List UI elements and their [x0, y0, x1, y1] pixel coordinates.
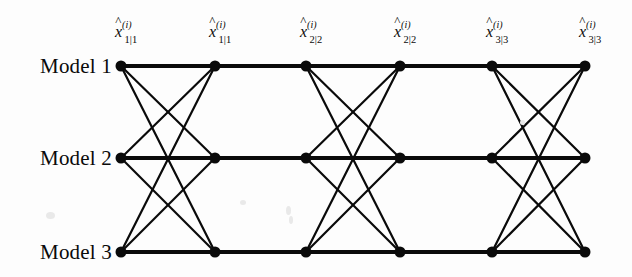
row-label-model-3: Model 3 [40, 240, 112, 265]
subscript: 1|1 [219, 34, 232, 45]
hat-accent-icon: ^ [486, 14, 492, 27]
graph-node [580, 247, 591, 258]
superscript: (i) [216, 19, 225, 30]
superscript: (i) [586, 19, 595, 30]
graph-node [116, 153, 127, 164]
graph-node [395, 153, 406, 164]
graph-node [580, 61, 591, 72]
hat-accent-icon: ^ [300, 14, 306, 27]
superscript: (i) [122, 19, 131, 30]
graph-node [210, 61, 221, 72]
node-label-col-5: ^x(i)3|3 [486, 22, 515, 43]
subscript: 3|3 [496, 34, 509, 45]
diagram-root: Model 1 Model 2 Model 3 ^x(i)1|1 ^x(i)1|… [0, 0, 632, 277]
node-label-col-2: ^x(i)1|1 [209, 22, 238, 43]
graph-node [487, 247, 498, 258]
row-label-model-2: Model 2 [40, 146, 112, 171]
hat-accent-icon: ^ [394, 14, 400, 27]
superscript: (i) [401, 19, 410, 30]
graph-node [210, 153, 221, 164]
graph-node [116, 247, 127, 258]
hat-accent-icon: ^ [579, 14, 585, 27]
node-label-col-6: ^x(i)3|3 [579, 22, 608, 43]
graph-node [301, 153, 312, 164]
hat-accent-icon: ^ [209, 14, 215, 27]
subscript: 2|2 [404, 34, 417, 45]
superscript: (i) [307, 19, 316, 30]
row-label-model-1: Model 1 [40, 54, 112, 79]
subscript: 3|3 [589, 34, 602, 45]
graph-node [210, 247, 221, 258]
graph-node [580, 153, 591, 164]
subscript: 2|2 [310, 34, 323, 45]
graph-node [487, 153, 498, 164]
superscript: (i) [493, 19, 502, 30]
hat-accent-icon: ^ [115, 14, 121, 27]
graph-node [116, 61, 127, 72]
graph-node [301, 247, 312, 258]
subscript: 1|1 [125, 34, 138, 45]
graph-node [395, 61, 406, 72]
graph-node [301, 61, 312, 72]
graph-node [487, 61, 498, 72]
node-label-col-4: ^x(i)2|2 [394, 22, 423, 43]
node-label-col-1: ^x(i)1|1 [115, 22, 144, 43]
graph-node [395, 247, 406, 258]
node-label-col-3: ^x(i)2|2 [300, 22, 329, 43]
